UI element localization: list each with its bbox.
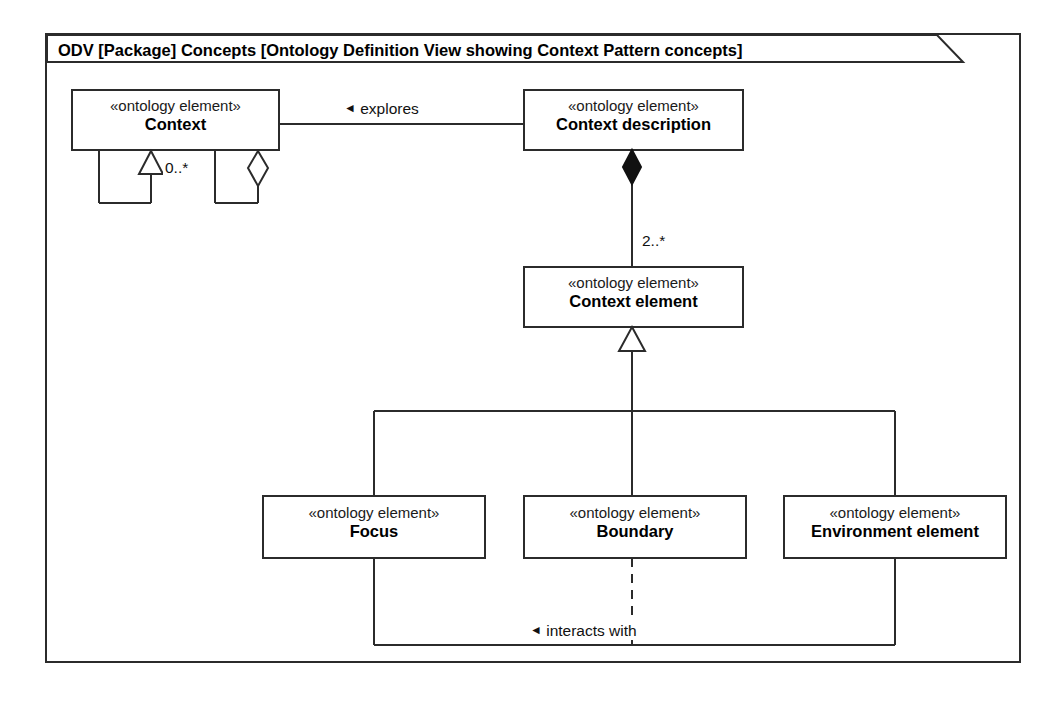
multiplicity-context-self-aggregation: 0..* xyxy=(163,159,190,177)
explores-text: explores xyxy=(360,100,419,117)
interacts-direction-arrow-icon: ◄ xyxy=(530,623,542,637)
class-box-context-description[interactable] xyxy=(524,90,743,150)
edge-label-interacts-with: ◄ interacts with xyxy=(527,622,640,640)
class-box-context-element[interactable] xyxy=(524,267,743,327)
class-box-context[interactable] xyxy=(72,90,279,150)
diagram-canvas xyxy=(0,0,1051,703)
class-box-focus[interactable] xyxy=(263,496,485,558)
class-box-boundary[interactable] xyxy=(524,496,746,558)
interacts-with-text: interacts with xyxy=(546,622,636,639)
multiplicity-description-to-element: 2..* xyxy=(640,232,667,250)
edge-label-explores: ◄ explores xyxy=(341,100,422,118)
frame-title: ODV [Package] Concepts [Ontology Definit… xyxy=(58,41,743,60)
class-box-environment-element[interactable] xyxy=(784,496,1006,558)
explores-direction-arrow-icon: ◄ xyxy=(344,101,356,115)
